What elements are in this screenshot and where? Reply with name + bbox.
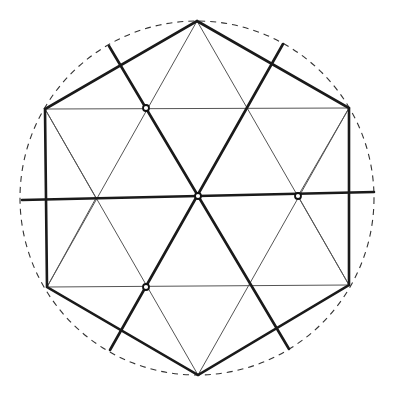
marker-right <box>295 193 301 199</box>
thin-line-7 <box>298 108 349 196</box>
marker-center <box>195 193 201 199</box>
thin-line-9 <box>298 196 349 285</box>
marker-upper-left <box>143 105 149 111</box>
thin-line-6 <box>45 109 96 198</box>
thin-line-1 <box>47 285 349 287</box>
hexagon-diagram <box>0 0 393 394</box>
diagram-canvas <box>0 0 393 394</box>
marker-lower-left <box>143 284 149 290</box>
thin-line-0 <box>45 108 349 109</box>
thin-line-8 <box>47 198 96 287</box>
